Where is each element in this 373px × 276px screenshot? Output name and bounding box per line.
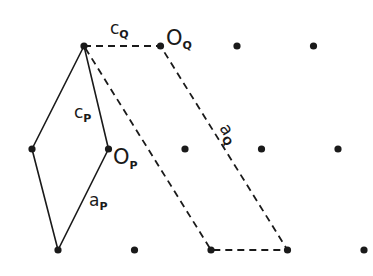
label-aQ: aQ	[213, 120, 243, 149]
label-aP: aP	[89, 190, 107, 213]
lattice-point	[310, 42, 317, 49]
lattice-point	[258, 145, 265, 152]
lattice-point	[105, 145, 112, 152]
label-cQ: cQ	[110, 18, 129, 41]
label-OP: OP	[113, 145, 138, 172]
lattice-point	[131, 246, 138, 253]
lattice-point	[181, 145, 188, 152]
label-OQ: OQ	[166, 26, 192, 52]
lattice-point	[233, 42, 240, 49]
lattice-point	[334, 145, 341, 152]
lattice-diagram: cQ OQ cP OP aP aQ	[0, 0, 373, 276]
lattice-point	[80, 42, 87, 49]
lattice-point	[157, 42, 164, 49]
label-cP: cP	[74, 102, 91, 125]
lattice-point	[28, 145, 35, 152]
lattice-point	[54, 246, 61, 253]
lattice-point	[207, 246, 214, 253]
cell-P-solid	[32, 46, 109, 250]
lattice-point	[284, 246, 291, 253]
lattice-point	[360, 246, 367, 253]
